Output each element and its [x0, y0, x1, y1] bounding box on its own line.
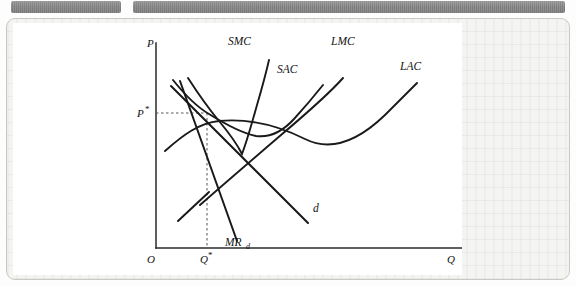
redaction-bar-left: [11, 1, 121, 13]
line-marginal-revenue: [180, 81, 237, 241]
label-smc: SMC: [228, 35, 251, 47]
label-origin: O: [147, 253, 155, 265]
line-demand: [171, 86, 308, 223]
screenshot-root: SMC SAC LMC LAC d MR d P Q O P * Q *: [0, 0, 576, 286]
label-axis-p: P: [146, 37, 154, 49]
economics-diagram: SMC SAC LMC LAC d MR d P Q O P * Q *: [13, 23, 462, 275]
label-marginal-revenue: MR: [224, 236, 242, 248]
label-marginal-revenue-subscript: d: [246, 242, 251, 251]
label-q-star-mark: *: [208, 250, 213, 260]
scanned-page-card: SMC SAC LMC LAC d MR d P Q O P * Q *: [6, 18, 570, 280]
label-lmc: LMC: [330, 35, 355, 47]
label-demand: d: [313, 202, 319, 214]
label-axis-q: Q: [447, 253, 455, 265]
label-q-star: Q: [200, 253, 208, 265]
line-lmc-lower-tail: [178, 192, 209, 221]
figure-plate: SMC SAC LMC LAC d MR d P Q O P * Q *: [13, 23, 462, 275]
label-lac: LAC: [399, 60, 421, 72]
label-sac: SAC: [277, 63, 298, 75]
label-p-star-mark: *: [145, 104, 150, 114]
label-p-star: P: [136, 107, 144, 119]
redaction-bar-right: [133, 1, 565, 13]
